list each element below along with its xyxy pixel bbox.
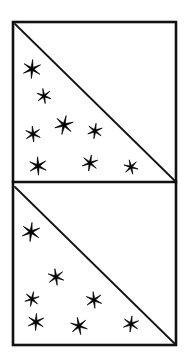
figure-root: Two stacked square panels each divided b… <box>0 0 189 360</box>
bottom-panel <box>13 185 176 345</box>
figure-canvas <box>0 0 189 360</box>
top-panel <box>13 22 176 182</box>
